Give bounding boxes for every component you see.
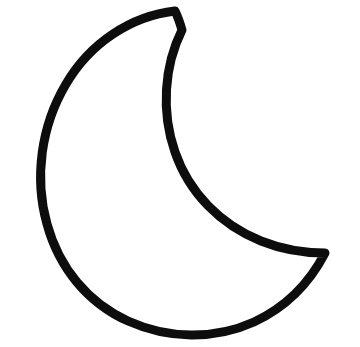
drawing-canvas [0, 0, 360, 347]
crescent-moon-icon [0, 0, 360, 347]
